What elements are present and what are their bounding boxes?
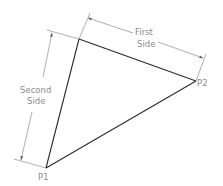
second-side-label-line1: Second — [20, 85, 51, 95]
dimension-line-first-a — [88, 18, 133, 33]
extension-line-p2 — [196, 54, 206, 81]
triangle — [46, 39, 196, 168]
second-side-dimension — [14, 30, 79, 168]
vertex-label-p1: P1 — [38, 172, 49, 182]
dimension-line-second-a — [43, 33, 52, 77]
vertex-label-p2: P2 — [197, 78, 208, 88]
triangle-diagram: First Side Second Side P1 P2 — [0, 0, 223, 186]
edge-second-side — [46, 39, 79, 168]
first-side-label-line2: Side — [137, 39, 155, 49]
edge-base — [46, 81, 196, 168]
second-side-label-line2: Side — [27, 96, 45, 106]
first-side-label-line1: First — [135, 27, 154, 37]
extension-line-p1 — [14, 159, 46, 168]
dimension-line-second-b — [21, 112, 32, 160]
extension-line-top — [79, 13, 90, 39]
dimension-line-first-b — [158, 42, 203, 58]
